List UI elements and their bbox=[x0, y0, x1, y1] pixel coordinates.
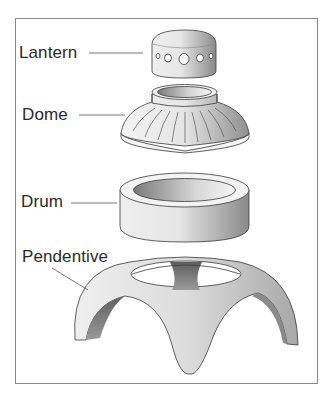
pendentive-shape bbox=[75, 257, 298, 374]
label-lantern: Lantern bbox=[19, 43, 77, 63]
pendentive-leader-line bbox=[52, 268, 88, 290]
dome-shape bbox=[121, 85, 249, 154]
drum-shape bbox=[120, 173, 249, 242]
label-drum: Drum bbox=[21, 192, 63, 212]
label-dome: Dome bbox=[22, 105, 68, 125]
label-pendentive: Pendentive bbox=[22, 247, 108, 267]
lantern-shape bbox=[152, 30, 216, 78]
